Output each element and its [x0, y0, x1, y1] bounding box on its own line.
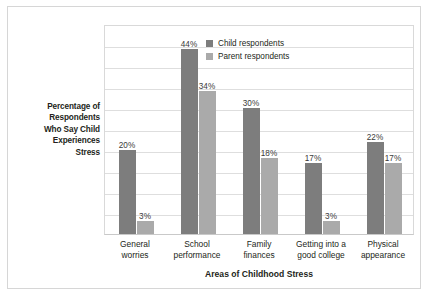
y-axis-title: Percentage of Respondents Who Say Child … [16, 101, 100, 158]
x-axis-category-label-line: Family [228, 239, 290, 250]
y-axis-title-line: Stress [16, 147, 100, 158]
bar-parent [199, 91, 216, 234]
x-axis-category-label-line: Getting into a [290, 239, 352, 250]
y-axis-title-line: Who Say Child [16, 124, 100, 135]
x-axis-category-label: Physicalappearance [352, 239, 414, 261]
legend-label-child: Child respondents [218, 37, 284, 50]
legend-swatch-parent-icon [206, 53, 213, 60]
bar-value-label: 3% [130, 212, 161, 221]
bar-value-label: 34% [192, 82, 223, 91]
bar-parent [137, 221, 154, 234]
bar-value-label: 18% [254, 149, 285, 158]
x-axis-category-label-line: Physical [352, 239, 414, 250]
x-axis-category-label: Schoolperformance [166, 239, 228, 261]
legend-swatch-child-icon [206, 40, 213, 47]
bar-child [305, 163, 322, 234]
bar-value-label: 44% [174, 40, 205, 49]
x-axis-category-label-line: School [166, 239, 228, 250]
x-axis-title: Areas of Childhood Stress [104, 269, 414, 279]
x-axis-category-label-line: worries [104, 250, 166, 261]
y-axis-title-line: Percentage of [16, 101, 100, 112]
bar-child [243, 108, 260, 234]
bar-value-label: 20% [112, 141, 143, 150]
chart-legend: Child respondents Parent respondents [206, 37, 289, 63]
chart-figure: Percentage of Respondents Who Say Child … [7, 6, 421, 289]
bar-value-label: 3% [316, 212, 347, 221]
legend-item-child: Child respondents [206, 37, 289, 50]
bar-child [119, 150, 136, 234]
x-axis-category-label: Generalworries [104, 239, 166, 261]
x-axis-category-label: Getting into agood college [290, 239, 352, 261]
x-axis-category-label-line: General [104, 239, 166, 250]
x-axis-category-label-line: appearance [352, 250, 414, 261]
bar-parent [385, 163, 402, 234]
y-axis-title-line: Respondents [16, 112, 100, 123]
x-axis-category-label: Familyfinances [228, 239, 290, 261]
bar-parent [261, 158, 278, 234]
x-axis-category-label-line: good college [290, 250, 352, 261]
bar-value-label: 17% [298, 154, 329, 163]
gridline [105, 89, 413, 90]
bar-value-label: 17% [378, 154, 409, 163]
y-axis-title-line: Experiences [16, 135, 100, 146]
bar-child [181, 49, 198, 234]
legend-label-parent: Parent respondents [218, 50, 289, 63]
legend-item-parent: Parent respondents [206, 50, 289, 63]
gridline [105, 68, 413, 69]
bar-parent [323, 221, 340, 234]
x-axis-category-label-line: finances [228, 250, 290, 261]
bar-value-label: 22% [360, 133, 391, 142]
x-axis-category-label-line: performance [166, 250, 228, 261]
bar-value-label: 30% [236, 99, 267, 108]
